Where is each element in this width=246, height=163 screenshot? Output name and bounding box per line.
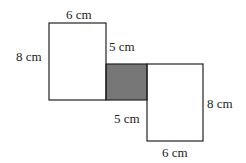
composite-rectangles-diagram: 6 cm 8 cm 5 cm 5 cm 8 cm 6 cm [0, 0, 246, 163]
lower-inner-side-label: 5 cm [114, 111, 140, 126]
top-width-label: 6 cm [66, 7, 92, 22]
right-rectangle [147, 64, 203, 141]
left-rectangle [49, 23, 106, 100]
right-height-label: 8 cm [207, 96, 233, 111]
left-height-label: 8 cm [16, 49, 42, 64]
bottom-width-label: 6 cm [162, 145, 188, 160]
upper-inner-side-label: 5 cm [109, 39, 135, 54]
shaded-overlap-square [106, 64, 147, 100]
